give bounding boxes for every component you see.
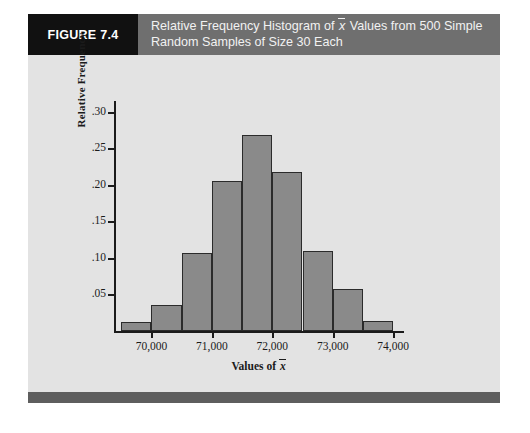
figure-title-text-post: Values from 500 Simple (346, 19, 482, 33)
y-axis-tick-label: .15 (74, 214, 106, 226)
figure-footer-bar (28, 392, 500, 403)
x-axis-tick (333, 331, 335, 338)
histogram-bars (114, 55, 404, 332)
x-bar-symbol-title: x (338, 19, 346, 33)
x-axis-tick (151, 331, 153, 338)
figure-header: FIGURE 7.4 Relative Frequency Histogram … (28, 14, 500, 55)
histogram-bar (272, 172, 302, 331)
figure-title-text-pre: Relative Frequency Histogram of (151, 19, 338, 33)
histogram-bar (303, 251, 333, 331)
x-axis-tick (272, 331, 274, 338)
figure-title: Relative Frequency Histogram of x Values… (138, 14, 482, 50)
x-axis-tick (212, 331, 214, 338)
figure-title-line2: Random Samples of Size 30 Each (151, 35, 343, 49)
figure-title-line1: Relative Frequency Histogram of x Values… (151, 19, 482, 33)
y-axis-tick-label: .05 (74, 287, 106, 299)
histogram-plot: .05.10.15.20.25.30 70,00071,00072,00073,… (28, 55, 500, 403)
x-axis-tick (393, 331, 395, 338)
histogram-bar (212, 181, 242, 331)
y-axis-label: Relative Frequency (75, 10, 87, 150)
y-axis-tick-label: .20 (74, 178, 106, 190)
figure-panel: FIGURE 7.4 Relative Frequency Histogram … (28, 14, 500, 403)
histogram-bar (242, 135, 272, 331)
histogram-bar (333, 289, 363, 331)
histogram-bar (151, 305, 181, 331)
x-bar-symbol-axis: x (279, 360, 287, 372)
y-axis-tick-label: .10 (74, 251, 106, 263)
x-axis-label: Values of x (114, 360, 404, 372)
histogram-bar (363, 321, 393, 331)
histogram-bar (121, 322, 151, 331)
x-axis-tick-label: 74,000 (358, 340, 428, 352)
x-axis-label-text: Values of (231, 360, 279, 372)
histogram-bar (182, 253, 212, 331)
